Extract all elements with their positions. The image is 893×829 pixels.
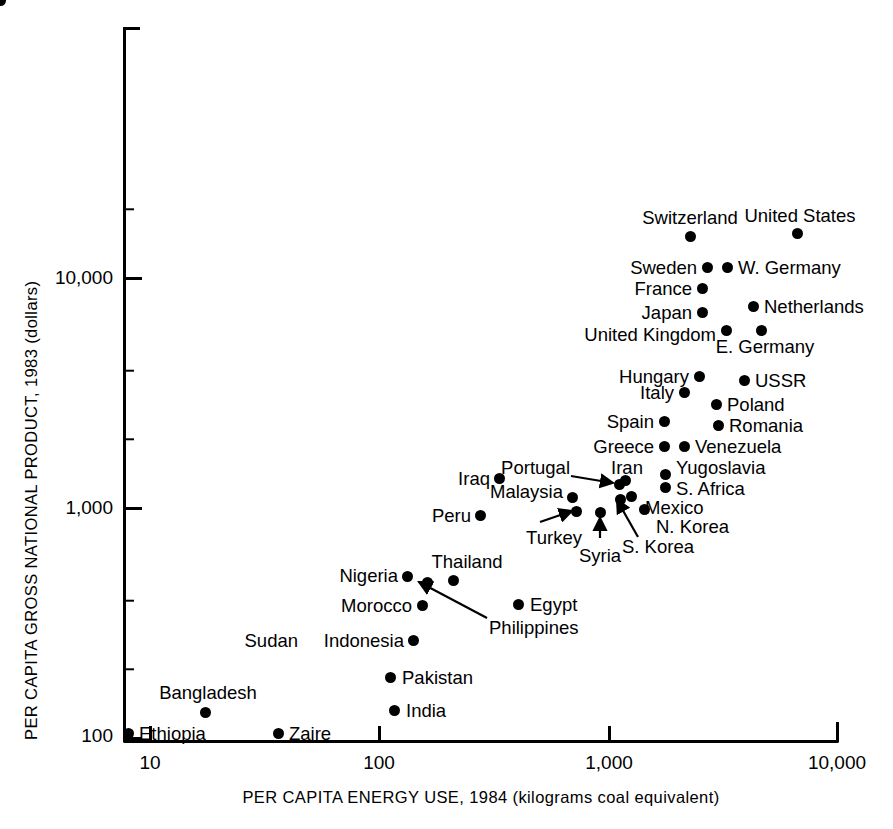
data-point xyxy=(739,375,750,386)
data-point xyxy=(679,441,690,452)
arrow-portugal xyxy=(571,476,613,483)
point-label-syria: Syria xyxy=(579,547,621,566)
x-tick-label-10000: 10,000 xyxy=(808,752,866,774)
data-point xyxy=(475,510,486,521)
data-point xyxy=(595,507,606,518)
data-point xyxy=(615,494,626,505)
x-axis-title: PER CAPITA ENERGY USE, 1984 (kilograms c… xyxy=(124,788,838,807)
point-label-thailand: Thailand xyxy=(432,553,503,572)
point-label-yugoslavia: Yugoslavia xyxy=(676,459,765,478)
point-label-morocco: Morocco xyxy=(341,597,412,616)
point-label-india: India xyxy=(406,702,446,721)
point-label-ethiopia: Ethiopia xyxy=(139,725,206,744)
point-label-venezuela: Venezuela xyxy=(695,438,781,457)
data-point xyxy=(417,600,428,611)
data-point xyxy=(567,492,578,503)
point-label-romania: Romania xyxy=(729,417,803,436)
point-label-indonesia: Indonesia xyxy=(324,632,404,651)
data-point xyxy=(685,231,696,242)
data-point xyxy=(659,441,670,452)
data-point xyxy=(756,325,767,336)
point-label-sudan: Sudan xyxy=(245,632,299,651)
data-point xyxy=(748,301,759,312)
data-point xyxy=(659,416,670,427)
data-point xyxy=(792,228,803,239)
arrow-s-korea xyxy=(617,500,638,537)
data-point xyxy=(626,491,637,502)
point-label-s-africa: S. Africa xyxy=(676,480,745,499)
point-label-sweden: Sweden xyxy=(630,259,697,278)
point-label-philippines: Philippines xyxy=(489,619,578,638)
point-label-switzerland: Switzerland xyxy=(642,209,738,228)
point-label-netherlands: Netherlands xyxy=(764,298,864,317)
data-point xyxy=(448,575,459,586)
point-label-united-kingdom: United Kingdom xyxy=(584,326,716,345)
x-tick-label-100: 100 xyxy=(363,752,395,774)
point-label-w-germany: W. Germany xyxy=(738,259,841,278)
y-axis-title: PER CAPITA GROSS NATIONAL PRODUCT, 1983 … xyxy=(22,40,41,740)
point-label-france: France xyxy=(634,280,692,299)
data-point xyxy=(402,571,413,582)
point-label-greece: Greece xyxy=(593,438,654,457)
point-label-n-korea: N. Korea xyxy=(656,518,729,537)
chart-page: 10,000 1,000 100 10 100 1,000 10,000 PER… xyxy=(0,0,893,829)
data-point xyxy=(660,482,671,493)
point-label-pakistan: Pakistan xyxy=(402,669,473,688)
data-point xyxy=(513,599,524,610)
data-point xyxy=(697,307,708,318)
data-point xyxy=(408,635,419,646)
data-point xyxy=(722,262,733,273)
data-point xyxy=(679,387,690,398)
point-label-united-states: United States xyxy=(744,207,855,226)
point-label-peru: Peru xyxy=(432,507,471,526)
point-label-s-korea: S. Korea xyxy=(622,538,694,557)
point-label-japan: Japan xyxy=(642,304,692,323)
data-point xyxy=(702,262,713,273)
point-label-bangladesh: Bangladesh xyxy=(159,684,257,703)
x-tick-label-1000: 1,000 xyxy=(585,752,633,774)
point-label-malaysia: Malaysia xyxy=(490,483,563,502)
point-label-nigeria: Nigeria xyxy=(339,567,398,586)
point-label-italy: Italy xyxy=(640,384,674,403)
data-point xyxy=(694,371,705,382)
data-point xyxy=(422,577,433,588)
point-label-ussr: USSR xyxy=(755,372,806,391)
data-point xyxy=(385,672,396,683)
data-point xyxy=(389,705,400,716)
point-label-spain: Spain xyxy=(607,413,654,432)
x-tick-label-10: 10 xyxy=(139,752,160,774)
point-label-iraq: Iraq xyxy=(458,470,490,489)
data-point xyxy=(660,469,671,480)
data-point xyxy=(571,506,582,517)
data-point xyxy=(721,325,732,336)
data-point xyxy=(273,728,284,739)
point-label-mexico: Mexico xyxy=(645,499,704,518)
data-point xyxy=(711,399,722,410)
data-point xyxy=(200,707,211,718)
point-label-iran: Iran xyxy=(611,459,643,478)
point-label-poland: Poland xyxy=(727,396,785,415)
point-label-turkey: Turkey xyxy=(526,529,582,548)
data-point xyxy=(697,283,708,294)
arrow-turkey xyxy=(540,511,572,522)
point-label-zaire: Zaire xyxy=(289,725,331,744)
point-label-e-germany: E. Germany xyxy=(716,338,815,357)
point-label-egypt: Egypt xyxy=(530,596,577,615)
data-point xyxy=(713,420,724,431)
data-point xyxy=(123,728,134,739)
point-label-portugal: Portugal xyxy=(501,459,570,478)
